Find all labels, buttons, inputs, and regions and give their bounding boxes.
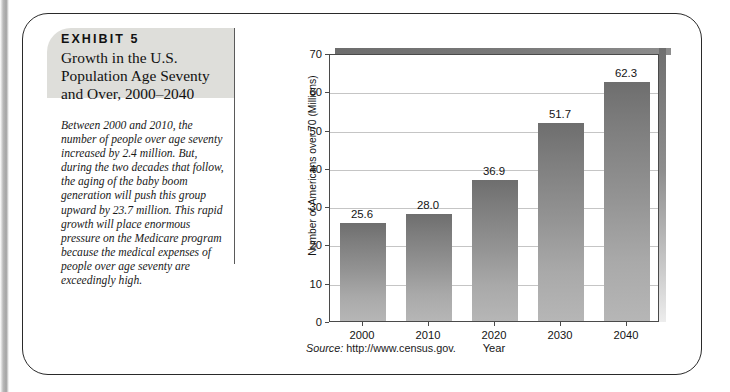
x-axis-tick-mark <box>626 322 627 326</box>
bar-value-label: 25.6 <box>332 208 392 220</box>
x-axis-tick-mark <box>428 322 429 326</box>
exhibit-number-label: EXHIBIT 5 <box>61 32 227 46</box>
y-axis-tick-mark <box>325 92 329 93</box>
y-axis-tick-mark <box>325 207 329 208</box>
bar-value-label: 62.3 <box>596 67 656 79</box>
y-axis-tick-mark <box>325 131 329 132</box>
source-line: Source: http://www.census.gov. <box>306 342 456 354</box>
y-axis-tick-label: 40 <box>310 163 322 175</box>
exhibit-caption-text: Between 2000 and 2010, the number of peo… <box>61 119 224 288</box>
y-axis-tick-label: 50 <box>310 125 322 137</box>
bar-chart: Number of Americans over 70 (Millions) 0… <box>273 42 713 362</box>
x-axis-tick-label: 2040 <box>591 329 661 341</box>
y-axis-tick-label: 0 <box>316 316 322 328</box>
y-axis-tick-mark <box>325 169 329 170</box>
x-axis-tick-mark <box>362 322 363 326</box>
x-axis-tick-label: 2000 <box>327 329 397 341</box>
x-axis-tick-label: 2030 <box>525 329 595 341</box>
y-axis-tick-mark <box>325 54 329 55</box>
column-divider <box>234 28 235 264</box>
bar-value-label: 51.7 <box>530 108 590 120</box>
x-axis-tick-label: 2020 <box>459 329 529 341</box>
bar <box>538 123 584 321</box>
bar <box>604 82 650 321</box>
y-axis-tick-label: 70 <box>310 48 322 60</box>
source-url: http://www.census.gov. <box>346 342 456 354</box>
plot-area <box>329 54 659 322</box>
page-edge-shading <box>0 0 9 392</box>
x-axis-tick-mark <box>494 322 495 326</box>
x-axis-tick-mark <box>560 322 561 326</box>
plot-right-shadow <box>659 48 666 322</box>
y-axis-tick-label: 30 <box>310 201 322 213</box>
y-axis-tick-label: 60 <box>310 86 322 98</box>
y-axis-tick-mark <box>325 284 329 285</box>
y-axis-tick-label: 20 <box>310 239 322 251</box>
y-axis-tick-mark <box>325 322 329 323</box>
exhibit-caption-column: EXHIBIT 5 Growth in the U.S. Population … <box>61 32 227 104</box>
exhibit-title: Growth in the U.S. Population Age Sevent… <box>61 49 226 104</box>
x-axis-tick-label: 2010 <box>393 329 463 341</box>
bar <box>340 223 386 321</box>
y-axis-tick-label: 10 <box>310 278 322 290</box>
bar-value-label: 28.0 <box>398 199 458 211</box>
y-axis-tick-mark <box>325 245 329 246</box>
exhibit-card: EXHIBIT 5 Growth in the U.S. Population … <box>22 13 702 375</box>
source-label: Source: <box>306 342 343 354</box>
plot-shell: 01020304050607025.6200028.0201036.920205… <box>329 54 659 322</box>
bar <box>472 180 518 321</box>
bar <box>406 214 452 321</box>
bar-value-label: 36.9 <box>464 165 524 177</box>
